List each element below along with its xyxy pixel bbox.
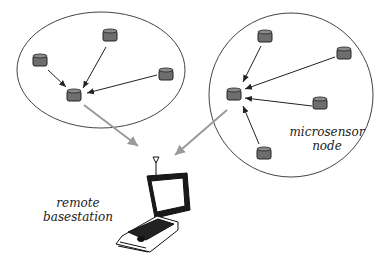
sensor-node bbox=[33, 54, 47, 66]
microsensor-label-line2: node bbox=[286, 139, 368, 153]
sensor-node bbox=[257, 147, 271, 159]
laptop-basestation-icon bbox=[116, 157, 190, 252]
sensor-node bbox=[258, 30, 272, 42]
laptop-screen bbox=[151, 178, 185, 212]
sensor-node bbox=[103, 29, 117, 41]
sensor-arrow bbox=[243, 106, 259, 144]
basestation-label-line2: basestation bbox=[38, 210, 118, 224]
sensor-arrow bbox=[245, 57, 335, 89]
basestation-label-line1: remote bbox=[38, 196, 118, 210]
uplink-arrow-right bbox=[175, 110, 227, 155]
sensor-arrow bbox=[83, 47, 106, 88]
trackball bbox=[138, 237, 145, 242]
antenna-icon bbox=[153, 157, 159, 176]
uplink-arrow-left bbox=[84, 105, 138, 146]
sensor-arrow bbox=[87, 75, 157, 93]
cluster-head-node bbox=[227, 88, 241, 100]
sensor-arrow bbox=[48, 70, 66, 87]
sensor-arrow bbox=[245, 98, 312, 106]
sensor-node bbox=[159, 68, 173, 80]
sensor-node bbox=[313, 97, 327, 109]
remote-basestation-label: remote basestation bbox=[38, 196, 118, 224]
microsensor-label-line1: microsensor bbox=[286, 125, 368, 139]
microsensor-node-label: microsensor node bbox=[286, 125, 368, 153]
sensor-node bbox=[337, 47, 351, 59]
cluster-head-node bbox=[67, 89, 81, 101]
left-cluster-arrows bbox=[48, 47, 157, 93]
sensor-arrow bbox=[243, 46, 261, 82]
